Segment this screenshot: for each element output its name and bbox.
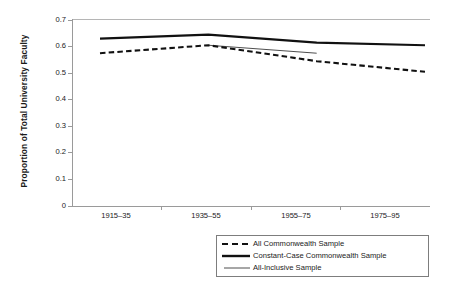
legend-item-constant-case-commonwealth-sample: Constant-Case Commonwealth Sample (221, 250, 426, 262)
legend-label: All Commonwealth Sample (253, 239, 344, 249)
legend-item-all-commonwealth-sample: All Commonwealth Sample (221, 238, 426, 250)
legend-swatch-solid-thin-icon (221, 262, 251, 274)
legend-item-all-inclusive-sample: All-Inclusive Sample (221, 262, 426, 274)
legend-swatch-dashed-icon (221, 238, 251, 250)
series-line-all-inclusive-sample (208, 45, 316, 53)
legend-label: Constant-Case Commonwealth Sample (253, 251, 386, 261)
series-line-constant-case-commonwealth-sample (100, 35, 425, 46)
line-chart: Proportion of Total University Faculty 0… (0, 0, 461, 286)
legend-label: All-Inclusive Sample (253, 263, 321, 273)
chart-legend: All Commonwealth Sample Constant-Case Co… (216, 235, 429, 277)
legend-swatch-solid-thick-icon (221, 250, 251, 262)
